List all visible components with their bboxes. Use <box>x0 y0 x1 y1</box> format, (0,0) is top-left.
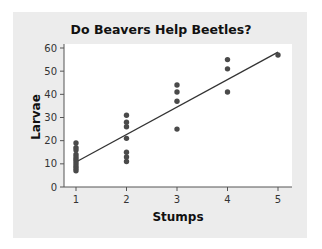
data-point <box>73 145 78 150</box>
data-point <box>174 99 179 104</box>
y-tick-label: 0 <box>51 182 57 193</box>
data-point <box>124 112 129 117</box>
y-axis-title: Larvae <box>29 94 43 140</box>
data-point <box>275 52 280 57</box>
data-point <box>124 124 129 129</box>
data-point <box>73 152 78 157</box>
data-point <box>124 119 129 124</box>
data-point <box>124 150 129 155</box>
data-point <box>73 140 78 145</box>
x-tick-label: 1 <box>73 194 79 205</box>
y-tick-label: 40 <box>44 89 57 100</box>
y-tick-label: 30 <box>44 112 57 123</box>
x-tick-label: 4 <box>224 194 230 205</box>
x-tick-label: 5 <box>275 194 281 205</box>
data-point <box>174 126 179 131</box>
data-point <box>225 89 230 94</box>
data-point <box>174 82 179 87</box>
data-point <box>225 66 230 71</box>
scatter-plot: 010203040506012345 Stumps Larvae <box>0 0 322 249</box>
x-axis-title: Stumps <box>152 210 203 224</box>
x-tick-label: 2 <box>123 194 129 205</box>
plot-area <box>64 44 292 187</box>
y-tick-label: 60 <box>44 43 57 54</box>
data-point <box>174 89 179 94</box>
data-point <box>124 136 129 141</box>
y-tick-label: 10 <box>44 158 57 169</box>
data-point <box>225 57 230 62</box>
x-tick-label: 3 <box>174 194 180 205</box>
y-tick-label: 50 <box>44 66 57 77</box>
data-point <box>124 159 129 164</box>
y-tick-label: 20 <box>44 135 57 146</box>
data-point <box>124 154 129 159</box>
